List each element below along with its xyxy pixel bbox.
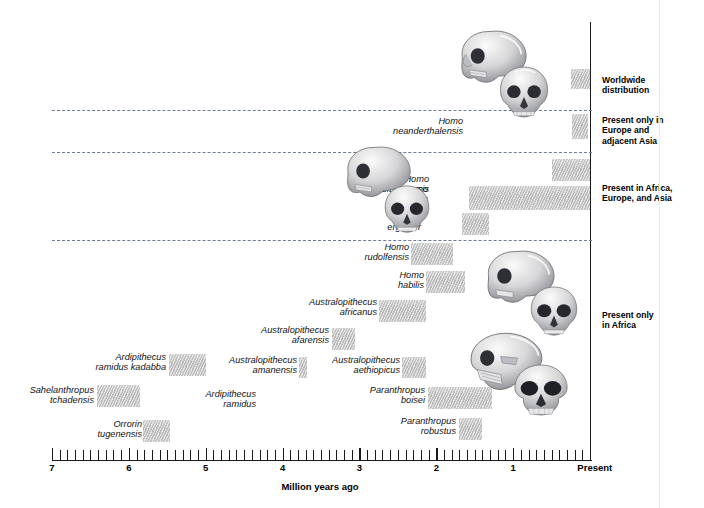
x-axis-minor-tick	[198, 450, 199, 460]
x-axis-minor-tick	[382, 450, 383, 460]
divider-europe-asia	[52, 152, 592, 153]
x-axis-minor-tick	[336, 450, 337, 460]
range-label-europe-asia: Present only in Europe and adjacent Asia	[602, 115, 664, 146]
x-axis-minor-tick	[552, 450, 553, 460]
x-axis-minor-tick	[344, 450, 345, 460]
range-bar	[426, 271, 465, 293]
range-bar	[571, 69, 590, 89]
x-axis-minor-tick	[121, 450, 122, 460]
x-axis-tick-label: 3	[357, 462, 362, 473]
x-axis-minor-tick	[529, 450, 530, 460]
x-axis-minor-tick	[298, 450, 299, 460]
species-label: Australopithecus amanensis	[177, 355, 297, 376]
x-axis-minor-tick	[75, 450, 76, 460]
species-label: Homo neanderthalensis	[343, 116, 463, 137]
x-axis-major-tick	[590, 448, 591, 460]
x-axis-major-tick	[206, 448, 207, 460]
range-bar	[97, 385, 140, 407]
x-axis-minor-tick	[544, 450, 545, 460]
x-axis-minor-tick	[575, 450, 576, 460]
x-axis-minor-tick	[467, 450, 468, 460]
x-axis-minor-tick	[244, 450, 245, 460]
x-axis-minor-tick	[505, 450, 506, 460]
x-axis-minor-tick	[406, 450, 407, 460]
range-bar	[379, 300, 427, 322]
range-bar	[143, 420, 169, 442]
species-label: Australopithecus aethiopicus	[280, 355, 400, 376]
range-bar	[462, 213, 489, 235]
x-axis-minor-tick	[313, 450, 314, 460]
x-axis-major-tick	[283, 448, 284, 460]
homo-neanderthalensis-skull-front	[497, 65, 551, 121]
x-axis-title: Million years ago	[0, 481, 640, 492]
x-axis-minor-tick	[236, 450, 237, 460]
x-axis-minor-tick	[98, 450, 99, 460]
species-label: Homo rudolfensis	[289, 242, 409, 263]
species-label: Homo habilis	[304, 270, 424, 291]
x-axis-minor-tick	[482, 450, 483, 460]
x-axis-minor-tick	[567, 450, 568, 460]
x-axis-minor-tick	[275, 450, 276, 460]
x-axis-minor-tick	[321, 450, 322, 460]
species-label: Australopithecus africanus	[257, 297, 377, 318]
x-axis-minor-tick	[267, 450, 268, 460]
species-label: Ardipithecus ramidus kadabba	[46, 352, 166, 373]
range-label-africa-europe-asia: Present in Africa, Europe, and Asia	[602, 183, 672, 204]
x-axis-minor-tick	[175, 450, 176, 460]
x-axis-minor-tick	[444, 450, 445, 460]
x-axis-tick-label: 7	[49, 462, 54, 473]
x-axis-tick-label: Present	[577, 462, 612, 473]
x-axis-major-tick	[359, 448, 360, 460]
x-axis-minor-tick	[213, 450, 214, 460]
x-axis-minor-tick	[137, 450, 138, 460]
page-edge-rule	[659, 0, 660, 508]
x-axis-minor-tick	[221, 450, 222, 460]
x-axis-minor-tick	[367, 450, 368, 460]
x-axis-tick-label: 4	[280, 462, 285, 473]
x-axis-major-tick	[129, 448, 130, 460]
x-axis-minor-tick	[167, 450, 168, 460]
x-axis-minor-tick	[183, 450, 184, 460]
x-axis-minor-tick	[352, 450, 353, 460]
divider-africa-europe-asia	[52, 240, 592, 241]
x-axis-minor-tick	[190, 450, 191, 460]
x-axis-minor-tick	[421, 450, 422, 460]
x-axis-minor-tick	[329, 450, 330, 460]
homo-ergaster-skull-front	[382, 184, 432, 236]
range-label-worldwide: Worldwide distribution	[602, 75, 649, 96]
x-axis-tick-label: 1	[510, 462, 515, 473]
range-bar	[402, 357, 426, 378]
x-axis-minor-tick	[452, 450, 453, 460]
paranthropus-boisei-skull-front	[512, 363, 570, 419]
x-axis-minor-tick	[398, 450, 399, 460]
range-bar	[572, 114, 587, 139]
x-axis-minor-tick	[229, 450, 230, 460]
x-axis-tick-label: 5	[203, 462, 208, 473]
x-axis-minor-tick	[144, 450, 145, 460]
x-axis-minor-tick	[413, 450, 414, 460]
x-axis-minor-tick	[160, 450, 161, 460]
species-label: Paranthropus boisei	[305, 385, 425, 406]
hominin-timeline-chart: 7654321Present Million years ago Worldwi…	[0, 0, 704, 508]
x-axis-minor-tick	[490, 450, 491, 460]
x-axis-minor-tick	[90, 450, 91, 460]
x-axis-minor-tick	[67, 450, 68, 460]
x-axis-tick-label: 2	[434, 462, 439, 473]
x-axis-minor-tick	[429, 450, 430, 460]
x-axis-minor-tick	[521, 450, 522, 460]
range-label-africa-only: Present only in Africa	[602, 310, 654, 331]
x-axis-minor-tick	[106, 450, 107, 460]
x-axis-minor-tick	[113, 450, 114, 460]
range-bar	[469, 186, 590, 210]
x-axis-minor-tick	[83, 450, 84, 460]
x-axis-minor-tick	[498, 450, 499, 460]
range-bar	[459, 418, 483, 440]
x-axis-major-tick	[52, 448, 53, 460]
x-axis-tick-label: 6	[126, 462, 131, 473]
range-bar	[552, 159, 590, 181]
x-axis-minor-tick	[375, 450, 376, 460]
species-label: Orrorin tugenensis	[22, 419, 142, 440]
species-label: Australopithecus afarensis	[209, 325, 329, 346]
x-axis-minor-tick	[475, 450, 476, 460]
present-day-vertical-line	[590, 22, 591, 460]
